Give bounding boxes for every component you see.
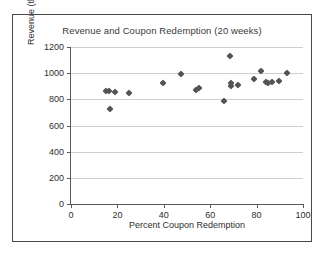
- y-tick-mark: [67, 73, 71, 74]
- x-tick-mark: [71, 204, 72, 208]
- scatter-point: [112, 88, 119, 95]
- x-tick-label: 40: [159, 210, 169, 220]
- x-axis-line: [70, 204, 304, 205]
- gridline-y: [71, 73, 303, 74]
- plot-area: 020040060080010001200 020406080100: [71, 47, 303, 204]
- scatter-point: [234, 81, 241, 88]
- scatter-point: [178, 71, 185, 78]
- gridline-y: [71, 47, 303, 48]
- gridline-y: [71, 152, 303, 153]
- x-tick-mark: [210, 204, 211, 208]
- x-tick-label: 60: [205, 210, 215, 220]
- x-tick-label: 80: [252, 210, 262, 220]
- y-tick-mark: [67, 178, 71, 179]
- scatter-point: [159, 79, 166, 86]
- y-tick-label: 400: [49, 147, 64, 157]
- y-tick-label: 1200: [44, 42, 64, 52]
- scatter-point: [125, 89, 132, 96]
- y-tick-mark: [67, 126, 71, 127]
- y-tick-label: 200: [49, 173, 64, 183]
- gridline-y: [71, 99, 303, 100]
- x-tick-mark: [117, 204, 118, 208]
- gridline-y: [71, 126, 303, 127]
- x-tick-mark: [257, 204, 258, 208]
- x-tick-label: 20: [112, 210, 122, 220]
- scatter-point: [283, 70, 290, 77]
- y-tick-mark: [67, 152, 71, 153]
- x-tick-mark: [303, 204, 304, 208]
- y-tick-mark: [67, 47, 71, 48]
- y-tick-label: 800: [49, 94, 64, 104]
- scatter-point: [221, 97, 228, 104]
- y-tick-label: 1000: [44, 68, 64, 78]
- x-axis-title: Percent Coupon Redemption: [71, 220, 303, 230]
- x-tick-mark: [164, 204, 165, 208]
- scatter-point: [107, 106, 114, 113]
- scatter-point: [275, 77, 282, 84]
- chart-figure: Revenue and Coupon Redemption (20 weeks)…: [12, 14, 312, 242]
- scatter-point: [251, 76, 258, 83]
- chart-title: Revenue and Coupon Redemption (20 weeks): [13, 25, 311, 36]
- y-axis-title: Revenue (thousands): [26, 0, 36, 67]
- scatter-point: [226, 53, 233, 60]
- y-tick-mark: [67, 99, 71, 100]
- x-tick-label: 100: [295, 210, 310, 220]
- y-tick-label: 600: [49, 121, 64, 131]
- x-tick-label: 0: [68, 210, 73, 220]
- y-tick-label: 0: [59, 199, 64, 209]
- gridline-y: [71, 178, 303, 179]
